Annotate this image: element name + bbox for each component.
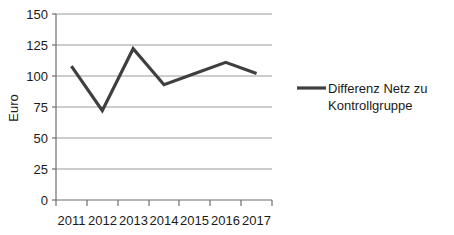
x-axis-tick-labels: 2011 2012 2013 2014 2015 2016 2017 [58, 213, 271, 228]
x-tick-label-2014: 2014 [150, 213, 179, 228]
y-tick-label-25: 25 [34, 162, 48, 177]
x-tick-label-2012: 2012 [88, 213, 117, 228]
y-tick-label-150: 150 [26, 7, 48, 22]
y-tick-label-50: 50 [34, 131, 48, 146]
x-tick-label-2016: 2016 [211, 213, 240, 228]
x-tick-label-2017: 2017 [242, 213, 271, 228]
y-tick-label-100: 100 [26, 69, 48, 84]
y-axis-title: Euro [6, 94, 21, 121]
legend-label-line2: Kontrollgruppe [328, 98, 413, 113]
legend-label-line1: Differenz Netz zu [328, 81, 427, 96]
x-tick-label-2011: 2011 [58, 213, 86, 228]
line-chart-figure: 150 125 100 75 50 25 0 Euro 2011 2012 20… [0, 0, 454, 235]
y-tick-label-0: 0 [41, 193, 48, 208]
y-tick-label-125: 125 [26, 38, 48, 53]
x-tick-label-2015: 2015 [180, 213, 209, 228]
y-tick-label-75: 75 [34, 100, 48, 115]
x-tick-label-2013: 2013 [119, 213, 148, 228]
chart-canvas: 150 125 100 75 50 25 0 Euro 2011 2012 20… [0, 0, 454, 235]
